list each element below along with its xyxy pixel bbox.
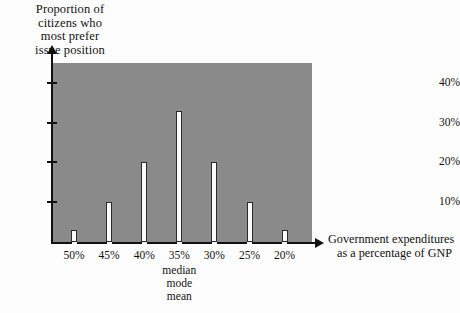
- annotation-mode: mode: [139, 277, 219, 290]
- x-axis-title-line-2: as a percentage of GNP: [328, 246, 460, 260]
- y-axis-title: Proportion of citizens who most prefer i…: [2, 3, 138, 57]
- annotation-median: median: [139, 264, 219, 277]
- x-axis-title-line-1: Government expenditures: [328, 232, 460, 246]
- y-axis-line: [51, 52, 53, 244]
- x-axis-tick-label: 45%: [89, 249, 129, 261]
- bar: [141, 162, 147, 242]
- y-axis-tick: [47, 201, 57, 203]
- bar: [176, 111, 182, 242]
- plot-area: [53, 63, 312, 242]
- chart-figure: Proportion of citizens who most prefer i…: [0, 0, 460, 313]
- x-axis-tick-label: 20%: [265, 249, 305, 261]
- x-axis-tick-label: 40%: [124, 249, 164, 261]
- x-axis-arrow-icon: [315, 238, 324, 248]
- y-axis-title-line-3: most prefer: [2, 30, 138, 44]
- x-axis-tick-label: 30%: [194, 249, 234, 261]
- bar: [71, 230, 77, 242]
- x-axis-title: Government expenditures as a percentage …: [328, 232, 460, 260]
- y-axis-tick-label: 30%: [416, 117, 460, 129]
- x-axis-tick-label: 50%: [54, 249, 94, 261]
- y-axis-tick-label: 10%: [416, 196, 460, 208]
- y-axis-tick: [47, 122, 57, 124]
- y-axis-title-line-2: citizens who: [2, 17, 138, 31]
- center-statistics-annotation: medianmodemean: [139, 264, 219, 304]
- bar: [282, 230, 288, 242]
- bar: [211, 162, 217, 242]
- y-axis-title-line-4: issue position: [2, 44, 138, 58]
- y-axis-tick-label: 40%: [416, 77, 460, 89]
- y-axis-tick: [47, 82, 57, 84]
- x-axis-line: [53, 242, 317, 244]
- bar: [106, 202, 112, 242]
- annotation-mean: mean: [139, 290, 219, 303]
- y-axis-tick-label: 20%: [416, 156, 460, 168]
- x-axis-tick-label: 35%: [159, 249, 199, 261]
- bar: [247, 202, 253, 242]
- y-axis-tick: [47, 161, 57, 163]
- x-axis-tick-label: 25%: [230, 249, 270, 261]
- y-axis-arrow-icon: [47, 45, 57, 54]
- y-axis-title-line-1: Proportion of: [2, 3, 138, 17]
